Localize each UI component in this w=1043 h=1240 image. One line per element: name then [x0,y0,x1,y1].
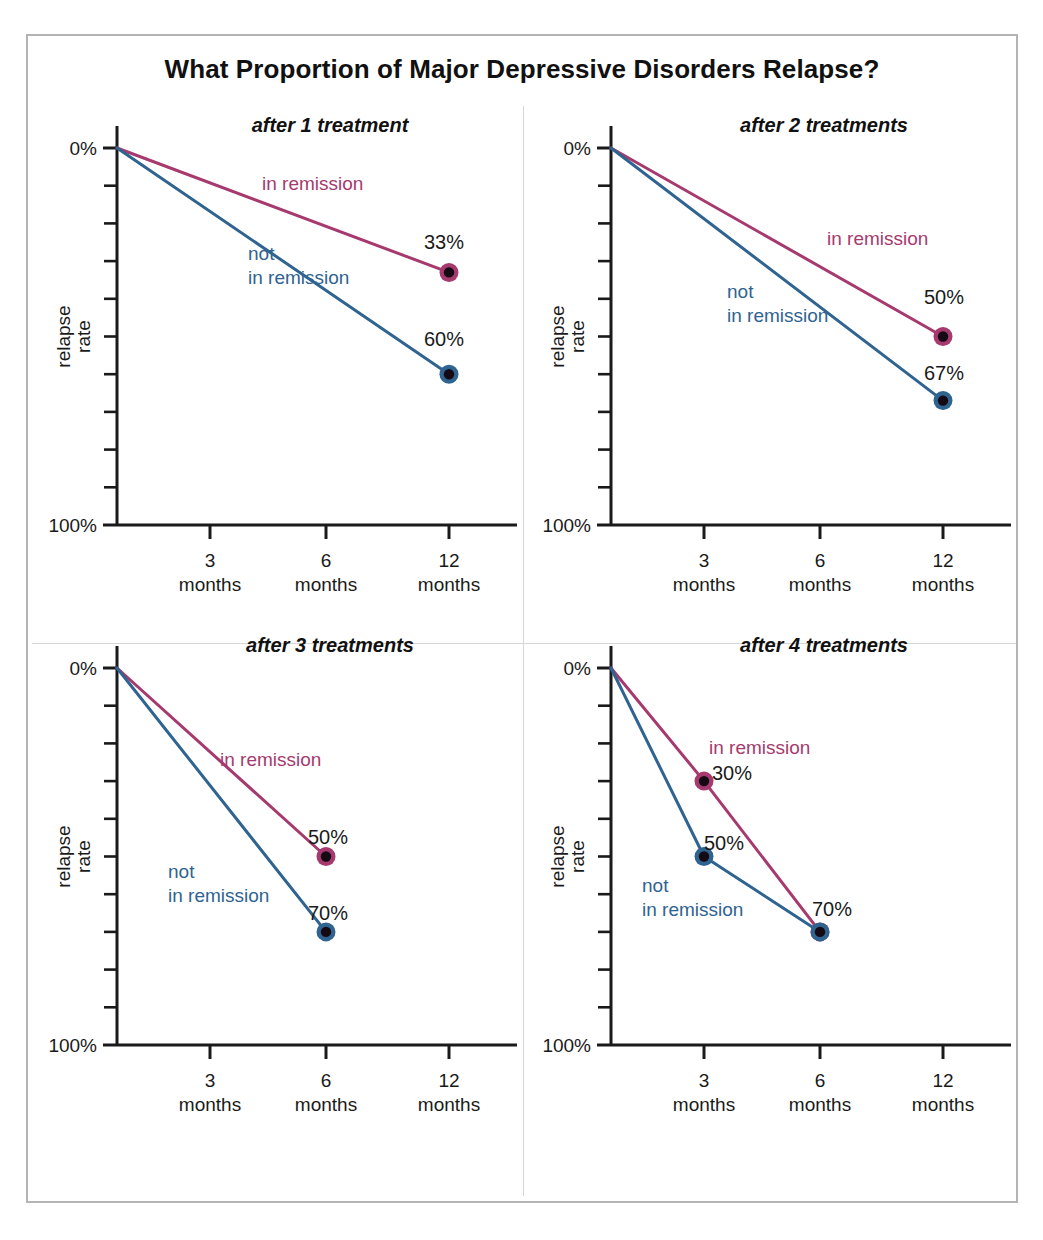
panel-title: after 3 treatments [246,634,414,656]
svg-text:relapse: relapse [53,825,74,887]
figure-container: What Proportion of Major Depressive Diso… [26,34,1018,1203]
svg-text:rate: rate [567,320,588,353]
x-tick-label-value: 3 [699,1070,710,1091]
y-axis-title: relapserate [53,825,94,887]
x-tick-label-unit: months [789,1094,851,1115]
series-annotation-label: in remission [827,228,928,249]
x-tick-label-unit: months [418,574,480,595]
x-tick-label-unit: months [673,574,735,595]
page-title: What Proportion of Major Depressive Diso… [28,54,1016,85]
svg-text:relapse: relapse [53,305,74,367]
y-tick-label-0: 0% [70,658,98,679]
y-tick-label-0: 0% [70,138,98,159]
panel-after-2-treatments: after 2 treatments0%100%relapserate3mont… [524,108,1019,638]
y-axis-title: relapserate [53,305,94,367]
data-value-label: 33% [424,231,464,253]
data-point-marker [321,851,331,861]
y-axis-title: relapserate [547,305,588,367]
x-tick-label-unit: months [789,574,851,595]
y-tick-label-100: 100% [48,1035,97,1056]
svg-text:rate: rate [73,320,94,353]
svg-text:relapse: relapse [547,825,568,887]
series-annotation-label: not [248,243,275,264]
data-point-marker [938,331,948,341]
y-tick-label-100: 100% [542,1035,591,1056]
x-tick-label-unit: months [418,1094,480,1115]
y-tick-label-100: 100% [48,515,97,536]
data-point-marker [815,927,825,937]
series-annotation-label: not [642,875,669,896]
x-tick-label-value: 12 [438,550,459,571]
series-annotation-label: in remission [220,749,321,770]
data-value-label: 70% [812,898,852,920]
panel-after-4-treatments: after 4 treatments0%100%relapserate3mont… [524,628,1019,1158]
x-tick-label-value: 6 [321,1070,332,1091]
data-value-label: 50% [704,832,744,854]
series-annotation-label: in remission [642,899,743,920]
x-tick-label-unit: months [912,574,974,595]
x-tick-label-unit: months [179,574,241,595]
data-value-label: 50% [308,826,348,848]
series-annotation-label: in remission [168,885,269,906]
data-value-label: 70% [308,902,348,924]
x-tick-label-value: 12 [932,1070,953,1091]
panel-title: after 1 treatment [252,114,410,136]
panel-title: after 4 treatments [740,634,908,656]
svg-text:rate: rate [73,840,94,873]
x-tick-label-value: 6 [815,1070,826,1091]
x-tick-label-value: 3 [699,550,710,571]
panel-after-3-treatments: after 3 treatments0%100%relapserate3mont… [30,628,525,1158]
panel-title: after 2 treatments [740,114,908,136]
series-annotation-label: in remission [727,305,828,326]
x-tick-label-value: 3 [205,1070,216,1091]
data-point-marker [444,369,454,379]
x-tick-label-value: 3 [205,550,216,571]
x-tick-label-unit: months [673,1094,735,1115]
svg-text:rate: rate [567,840,588,873]
y-tick-label-0: 0% [564,138,592,159]
data-value-label: 60% [424,328,464,350]
y-tick-label-0: 0% [564,658,592,679]
data-point-marker [938,395,948,405]
x-tick-label-unit: months [295,1094,357,1115]
y-axis-title: relapserate [547,825,588,887]
series-annotation-label: not [168,861,195,882]
y-tick-label-100: 100% [542,515,591,536]
series-annotation-label: not [727,281,754,302]
data-point-marker [444,267,454,277]
x-tick-label-value: 12 [932,550,953,571]
series-line-in-remission [117,148,449,272]
series-line-not-in-remission [611,148,943,401]
series-annotation-label: in remission [262,173,363,194]
data-point-marker [321,927,331,937]
data-value-label: 30% [712,762,752,784]
data-point-marker [699,776,709,786]
x-tick-label-value: 12 [438,1070,459,1091]
x-tick-label-unit: months [179,1094,241,1115]
x-tick-label-unit: months [295,574,357,595]
svg-text:relapse: relapse [547,305,568,367]
x-tick-label-value: 6 [815,550,826,571]
data-value-label: 50% [924,286,964,308]
x-tick-label-value: 6 [321,550,332,571]
x-tick-label-unit: months [912,1094,974,1115]
series-annotation-label: in remission [709,737,810,758]
panel-after-1-treatment: after 1 treatment0%100%relapserate3month… [30,108,525,638]
series-annotation-label: in remission [248,267,349,288]
data-value-label: 67% [924,362,964,384]
